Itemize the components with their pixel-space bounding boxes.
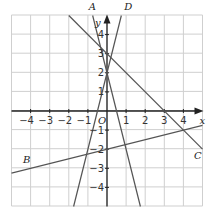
- x-tick-label: 4: [180, 115, 186, 126]
- x-tick-label: 3: [161, 115, 167, 126]
- origin-label: O: [98, 115, 106, 126]
- y-tick-label: −4: [89, 182, 104, 193]
- x-tick-label: −4: [19, 115, 34, 126]
- x-tick-label: 2: [142, 115, 148, 126]
- y-tick-label: 2: [98, 67, 104, 78]
- axes: [12, 15, 204, 207]
- x-tick-label: −2: [57, 115, 72, 126]
- y-axis-label: y: [94, 17, 101, 28]
- y-tick-label: −2: [89, 144, 104, 155]
- coordinate-graph: −4−3−2−11234−4−3−2−11234xyOABCD: [0, 0, 212, 217]
- line-label-a: A: [88, 1, 96, 12]
- y-tick-label: −1: [89, 125, 104, 136]
- y-tick-label: 4: [98, 29, 104, 40]
- y-axis-arrow-icon: [104, 15, 111, 24]
- x-tick-label: −3: [38, 115, 53, 126]
- x-axis-label: x: [200, 115, 206, 126]
- y-tick-label: 1: [98, 86, 104, 97]
- line-label-d: D: [123, 1, 132, 12]
- y-tick-label: 3: [98, 48, 104, 59]
- line-label-b: B: [22, 154, 30, 165]
- x-tick-label: 1: [123, 115, 129, 126]
- line-label-c: C: [194, 150, 202, 161]
- y-tick-label: −3: [89, 163, 104, 174]
